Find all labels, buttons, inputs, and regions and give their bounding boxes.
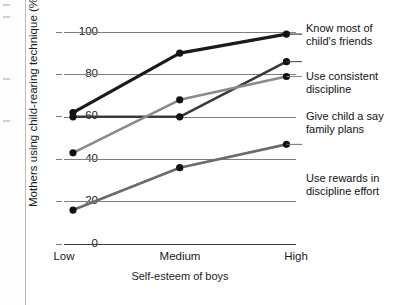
- gridline-100: [64, 32, 296, 33]
- legend-label-line2: discipline: [306, 83, 400, 96]
- x-axis-baseline: [64, 244, 296, 245]
- legend-item-use-rewards-in-discipline-effort: Use rewards in discipline effort: [306, 172, 400, 198]
- plot-region: [64, 32, 296, 244]
- x-axis-title: Self-esteem of boys: [64, 270, 296, 282]
- legend-label-line1: Use consistent: [306, 70, 400, 83]
- legend-label-line2: family plans: [306, 123, 400, 136]
- legend-label-line1: Give child a say: [306, 110, 400, 123]
- legend-label-line1: Know most of: [306, 22, 400, 35]
- gridline-40: [64, 159, 296, 160]
- legend-label-line1: Use rewards in: [306, 172, 400, 185]
- gridline-60: [64, 117, 296, 118]
- y-axis-title: Mothers using child-rearing technique (%…: [27, 0, 39, 207]
- legend-item-use-consistent-discipline: Use consistent discipline: [306, 70, 400, 96]
- x-tick-label-medium: Medium: [140, 250, 220, 262]
- legend-item-know-most-of-childs-friends: Know most of child's friends: [306, 22, 400, 48]
- legend-label-line2: discipline effort: [306, 185, 400, 198]
- gridline-80: [64, 74, 296, 75]
- y-tick-mark: [56, 32, 62, 33]
- y-tick-mark: [56, 159, 62, 160]
- x-tick-label-high: High: [256, 250, 336, 262]
- x-tick-label-low: Low: [24, 250, 104, 262]
- line-chart: Mothers using child-rearing technique (%…: [0, 0, 400, 305]
- legend-label-line2: child's friends: [306, 35, 400, 48]
- gridline-20: [64, 201, 296, 202]
- y-tick-mark: [56, 201, 62, 202]
- legend-item-give-child-a-say-family-plans: Give child a say family plans: [306, 110, 400, 136]
- y-tick-mark: [56, 74, 62, 75]
- y-tick-mark: [56, 244, 62, 245]
- y-tick-mark: [56, 116, 62, 117]
